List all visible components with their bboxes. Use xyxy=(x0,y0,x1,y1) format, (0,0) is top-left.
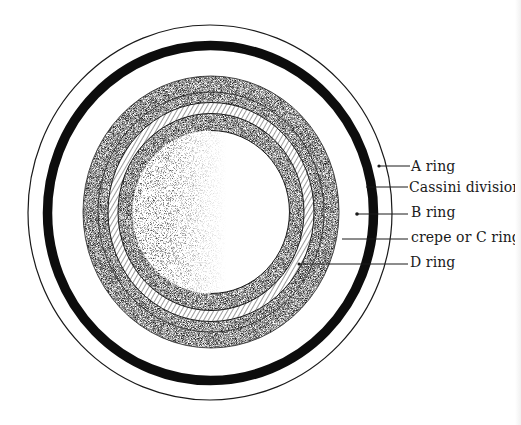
label-d-ring: D ring xyxy=(410,254,455,270)
label-cassini-division: Cassini division xyxy=(409,179,521,195)
planet-saturn xyxy=(130,128,295,298)
page-edge-shadow xyxy=(515,0,521,425)
label-b-ring: B ring xyxy=(411,204,456,220)
label-a-ring: A ring xyxy=(411,158,455,174)
label-c-ring: crepe or C ring xyxy=(411,229,521,245)
saturn-rings-diagram: A ring Cassini division B ring crepe or … xyxy=(0,0,521,425)
